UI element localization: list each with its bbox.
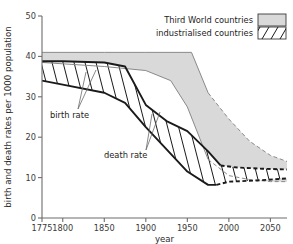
death-rate-label: death rate [104, 150, 147, 160]
y-tick-label: 20 [26, 132, 36, 142]
x-tick-label: 1950 [177, 223, 198, 233]
x-tick-label: 1850 [94, 223, 115, 233]
y-tick-label: 30 [26, 92, 36, 102]
y-tick-label: 10 [26, 173, 36, 183]
y-tick-label: 50 [26, 11, 36, 21]
birth-rate-label: birth rate [50, 110, 89, 120]
chart-container: 010203040501775180018501900195020002050y… [0, 0, 293, 244]
x-tick-label: 2050 [260, 223, 281, 233]
x-axis-title: year [155, 234, 175, 244]
x-tick-label: 1775 [32, 223, 53, 233]
legend-swatch-third-world [258, 14, 286, 26]
x-tick-label: 1800 [52, 223, 73, 233]
x-tick-label: 1900 [135, 223, 156, 233]
y-tick-label: 40 [26, 51, 36, 61]
demographic-transition-chart: 010203040501775180018501900195020002050y… [0, 0, 293, 244]
legend-label-industrialised: industrialised countries [156, 28, 253, 38]
legend-label-third-world: Third World countries [163, 15, 253, 25]
x-tick-label: 2000 [218, 223, 239, 233]
chart-legend: Third World countriesindustrialised coun… [156, 14, 293, 39]
y-axis-title: birth and death rates per 1000 populatio… [3, 26, 13, 207]
y-tick-label: 0 [31, 213, 36, 223]
